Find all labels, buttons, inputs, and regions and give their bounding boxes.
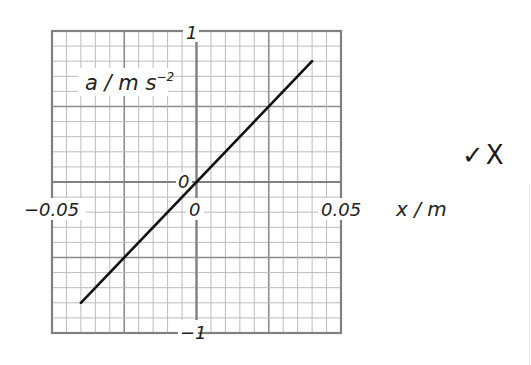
x-axis-label: x / m bbox=[395, 197, 447, 221]
tick-cross-marks: ✓X bbox=[462, 140, 506, 170]
y-tick-top: 1 bbox=[186, 22, 197, 43]
chart-plot: a / m s−2 1 0 −1 −0.05 0 0.05 x / m bbox=[0, 0, 531, 365]
x-tick-pos: 0.05 bbox=[321, 199, 361, 220]
y-tick-bottom: −1 bbox=[180, 322, 207, 343]
x-tick-zero: 0 bbox=[189, 199, 200, 220]
page-edge bbox=[529, 185, 530, 365]
x-tick-neg: −0.05 bbox=[24, 199, 79, 220]
y-tick-zero: 0 bbox=[178, 171, 189, 192]
